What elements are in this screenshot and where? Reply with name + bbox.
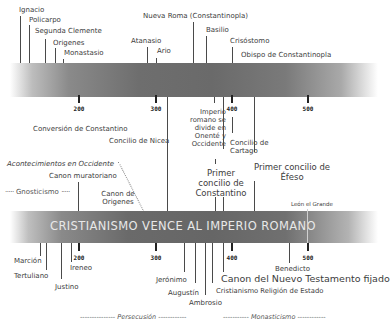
- label-origenes: Origenes: [53, 39, 84, 47]
- label-ambrosio: Ambrosio: [189, 299, 222, 307]
- line-imperio: [214, 97, 215, 103]
- gnosticismo-dots-right: ·····: [61, 188, 70, 196]
- line-constantino-lower-a: [215, 197, 216, 211]
- label-religion-estado: Cristianismo Religión de Estado: [216, 287, 323, 295]
- label-benedicto: Benedicto: [275, 265, 310, 273]
- line-nueva-roma: [193, 22, 194, 63]
- top-tick-400: [231, 95, 233, 103]
- era-monasticismo-dashes-left: -----------: [223, 313, 251, 321]
- bottom-tick-500: [307, 243, 309, 251]
- line-augustin: [195, 243, 196, 283]
- label-concilio-nicea: Concilio de Nicea: [109, 137, 169, 145]
- label-basilio: Basilio: [206, 26, 229, 34]
- line-canon-nt: [223, 243, 224, 272]
- line-ario: [156, 58, 157, 63]
- label-justino: Justino: [55, 283, 79, 291]
- top-tick-label-400: 400: [227, 105, 238, 112]
- era-persecusion: --------------- Persecusión ------------: [80, 313, 186, 321]
- line-muratoriano: [78, 182, 79, 211]
- line-constantino: [223, 97, 224, 149]
- bottom-tick-label-300: 300: [151, 254, 162, 261]
- line-benedicto: [289, 243, 290, 263]
- label-canon-muratoriano: Canon muratoriano: [49, 172, 117, 180]
- line-atanasio: [147, 47, 148, 63]
- label-ireneo: Ireneo: [70, 264, 92, 272]
- top-timeline-band: [10, 63, 378, 97]
- label-concilio-cartago: Concilio de Cartago: [230, 139, 270, 155]
- line-ambrosio: [205, 243, 206, 295]
- line-religion-estado: [212, 243, 213, 283]
- bottom-tick-label-500: 500: [303, 254, 314, 261]
- line-nicea: [167, 97, 168, 211]
- band-title: CRISTIANISMO VENCE AL IMPERIO ROMANO: [50, 219, 316, 233]
- label-canon-nt: Canon del Nuevo Testamento fijado: [221, 274, 390, 284]
- era-persecusion-dashes-left: ---------------: [80, 313, 117, 321]
- label-ario: Ario: [157, 47, 171, 55]
- label-obispo: Obispo de Constantinopla: [241, 51, 331, 59]
- line-segunda-clemente: [45, 39, 46, 63]
- label-marcion: Marción: [14, 257, 42, 265]
- era-monasticismo-label: Monasticismo: [251, 313, 296, 321]
- label-crisostomo: Crisóstomo: [230, 37, 269, 45]
- bottom-tick-300: [155, 243, 157, 251]
- label-atanasio: Atanasio: [131, 37, 161, 45]
- label-conversion-constantino: Conversión de Constantino: [33, 125, 128, 133]
- line-justino: [61, 243, 62, 279]
- line-constantino-2: [215, 159, 216, 164]
- label-jeronimo: Jerónimo: [156, 276, 187, 284]
- label-ignacio: Ignacio: [19, 6, 44, 14]
- era-persecusion-label: Persecusión: [117, 313, 156, 321]
- era-monasticismo: ----------- Monasticismo ------------: [223, 313, 326, 321]
- label-tertuliano: Tertuliano: [14, 272, 48, 280]
- era-monasticismo-dashes-right: ------------: [295, 313, 325, 321]
- label-canon-origenes: Canon de Origenes: [97, 190, 139, 206]
- label-leon-el-grande: León el Grande: [291, 200, 333, 208]
- label-segunda-clemente: Segunda Clemente: [35, 27, 102, 35]
- bottom-tick-200: [78, 243, 80, 251]
- bottom-tick-400: [231, 243, 233, 251]
- top-tick-300: [155, 95, 157, 103]
- line-origenes: [55, 48, 56, 63]
- line-leon: [307, 209, 308, 243]
- line-ignacio: [20, 16, 21, 63]
- top-tick-label-200: 200: [74, 105, 85, 112]
- line-basilio: [206, 36, 207, 63]
- line-cartago: [232, 117, 233, 133]
- label-augustin: Augustín: [168, 289, 199, 297]
- line-monastasio: [63, 59, 64, 63]
- top-tick-label-300: 300: [151, 105, 162, 112]
- label-primer-concilio-efeso: Primer concilio de Éfeso: [252, 162, 332, 182]
- label-acontecimientos-occidente: Acontecimientos en Occidente: [7, 160, 114, 168]
- line-tertuliano: [46, 243, 47, 270]
- era-persecusion-dashes-right: ------------: [156, 313, 186, 321]
- gnosticismo-text: Gnosticismo: [16, 188, 59, 196]
- line-jeronimo: [184, 243, 185, 272]
- line-efeso: [254, 97, 255, 152]
- line-crisostomo: [232, 47, 233, 63]
- line-efeso-lower: [254, 181, 255, 211]
- label-imperio-divide: Imperio romano se divide en Onenté y Occ…: [186, 108, 226, 148]
- label-monastasio: Monastasio: [64, 49, 104, 57]
- line-ireneo: [71, 243, 72, 262]
- top-tick-label-500: 500: [303, 105, 314, 112]
- top-tick-200: [78, 95, 80, 103]
- label-gnosticismo: ····· Gnosticismo ·····: [5, 188, 70, 196]
- gnosticismo-dots-left: ·····: [5, 188, 14, 196]
- line-marcion: [40, 243, 41, 256]
- bottom-tick-label-400: 400: [227, 254, 238, 261]
- top-tick-500: [307, 95, 309, 103]
- bottom-tick-label-200: 200: [74, 254, 85, 261]
- line-constantino-lower-b: [223, 197, 224, 211]
- label-primer-concilio-constantino: Primer concilio de Constantino: [190, 168, 252, 198]
- label-policarpo: Policarpo: [29, 16, 61, 24]
- line-policarpo: [29, 25, 30, 63]
- label-nueva-roma: Nueva Roma (Constantinopla): [143, 12, 248, 20]
